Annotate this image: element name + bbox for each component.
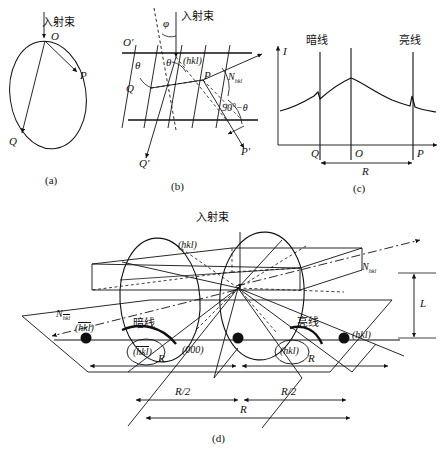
panel-d-cone-right-label: (hkl) <box>280 346 299 356</box>
panel-d-spot-center-label: (000) <box>182 345 204 355</box>
angle-theta-left-arc <box>140 78 152 88</box>
panel-a-incident-beam-label: 入射束 <box>42 17 75 28</box>
d-spot-left <box>81 333 92 344</box>
panel-d-spot-left-label: (hkl) <box>75 322 94 334</box>
panel-a-point-O: O <box>51 31 59 42</box>
panel-d-dim-Rhalf-left: R/2 <box>175 386 190 397</box>
d-projection-lines <box>128 344 376 428</box>
d-normal-hkl-right <box>236 240 420 286</box>
panel-d-dim-R-left: R <box>158 353 165 364</box>
d-crystal-right-face <box>300 248 362 290</box>
figure-vector-layer <box>0 0 447 458</box>
panel-d-cone-left-label: (hkl) <box>133 346 152 358</box>
panel-c-bright-line-label: 亮线 <box>399 35 421 46</box>
panel-b-point-Q-prime: Q′ <box>139 158 149 169</box>
ray-O-to-Q <box>22 41 45 133</box>
panel-b-angle-phi: φ <box>163 18 169 29</box>
angle-phi-arc <box>162 34 176 37</box>
panel-b-incident-beam-label: 入射束 <box>181 11 214 22</box>
panel-b-point-O-prime: O′ <box>123 37 133 48</box>
d-hkl-plane-trace <box>120 268 300 280</box>
panel-c-tick-Q: Q <box>311 148 319 159</box>
panel-c-span-R: R <box>362 166 369 177</box>
panel-d-dim-R-right: R <box>308 353 315 364</box>
panel-a-point-Q: Q <box>9 136 17 147</box>
panel-d-bright-line-label: 亮线 <box>297 317 319 328</box>
panel-c-label: (c) <box>353 183 365 194</box>
panel-a-graphics <box>3 12 93 154</box>
panel-a-label: (a) <box>45 175 57 186</box>
panel-d-dim-R-bottom: R <box>240 404 247 415</box>
panel-b-point-P: P <box>204 70 211 81</box>
panel-c-tick-P: P <box>417 148 424 159</box>
panel-b-plane-hkl: (hkl) <box>183 56 202 66</box>
panel-c-dark-line-label: 暗线 <box>306 35 328 46</box>
panel-d-plane-hkl-top: (hkl) <box>178 240 197 250</box>
panel-d-height-L: L <box>420 298 426 309</box>
ray-to-P-prime <box>203 80 244 148</box>
panel-b-angle-theta-right: θ <box>166 57 171 68</box>
panel-a-point-P: P <box>80 70 87 81</box>
d-spot-right <box>339 333 350 344</box>
panel-d-incident-beam-label: 入射束 <box>196 212 229 223</box>
panel-b-normal-label: Nhkl <box>228 72 242 84</box>
panel-d-normal-right: Nhkl <box>362 262 376 274</box>
panel-b-point-Q: Q <box>126 83 134 94</box>
panel-d-normal-left: Nhkl <box>56 309 70 322</box>
panel-c-graphics <box>278 46 437 163</box>
panel-b-label: (b) <box>171 181 184 192</box>
panel-b-angle-theta-left: θ <box>135 60 140 71</box>
angle-90-pointer <box>228 126 244 134</box>
panel-d-dim-Rhalf-right: R/2 <box>281 386 296 397</box>
panel-b-angle-complement: 90°−θ <box>222 103 248 113</box>
panel-c-tick-O: O <box>355 148 363 159</box>
panel-c-axis-y-label: I <box>283 46 287 57</box>
figure-kikuchi-lines: 入射束 O P Q (a) 入射束 φ O′ θ θ (hkl) P Q Nhk… <box>0 0 447 458</box>
d-spot-center-000 <box>233 333 244 344</box>
panel-d-dark-line-label: 暗线 <box>133 318 155 329</box>
panel-d-spot-right-label: (hkl) <box>352 330 371 340</box>
panel-d-label: (d) <box>212 433 225 444</box>
d-detector-plane <box>22 300 392 372</box>
panel-b-point-P-prime: P′ <box>241 146 250 157</box>
